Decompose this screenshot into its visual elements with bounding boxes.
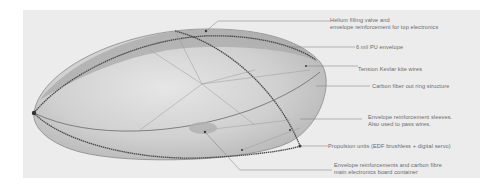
electronics-pad bbox=[189, 122, 217, 134]
label-kevlar-wires: Tension Kevlar kite wires bbox=[358, 66, 422, 73]
label-line: 6 mil PU envelope bbox=[356, 44, 403, 51]
label-helium-valve: Helium filling valve and envelope reinfo… bbox=[330, 17, 438, 30]
label-carbon-ring: Carbon fiber out ring structure bbox=[372, 83, 449, 90]
label-line: Carbon fiber out ring structure bbox=[372, 83, 449, 90]
label-line: Tension Kevlar kite wires bbox=[358, 66, 422, 73]
label-line: Also used to pass wires. bbox=[368, 121, 452, 128]
label-propulsion-units: Propulsion units (EDF brushless + digita… bbox=[328, 143, 451, 150]
label-electronics-container: Envelope reinforcements and carbon fibre… bbox=[334, 162, 442, 175]
label-line: envelope reinforcement for top electroni… bbox=[330, 24, 438, 31]
label-line: Envelope reinforcements and carbon fibre bbox=[334, 162, 442, 169]
label-line: main electronics board container bbox=[334, 169, 442, 176]
label-line: Envelope reinforcement sleeves. bbox=[368, 114, 452, 121]
label-pu-envelope: 6 mil PU envelope bbox=[356, 44, 403, 51]
label-line: Helium filling valve and bbox=[330, 17, 438, 24]
label-reinforcement-sleeves: Envelope reinforcement sleeves. Also use… bbox=[368, 114, 452, 127]
label-line: Propulsion units (EDF brushless + digita… bbox=[328, 143, 451, 150]
